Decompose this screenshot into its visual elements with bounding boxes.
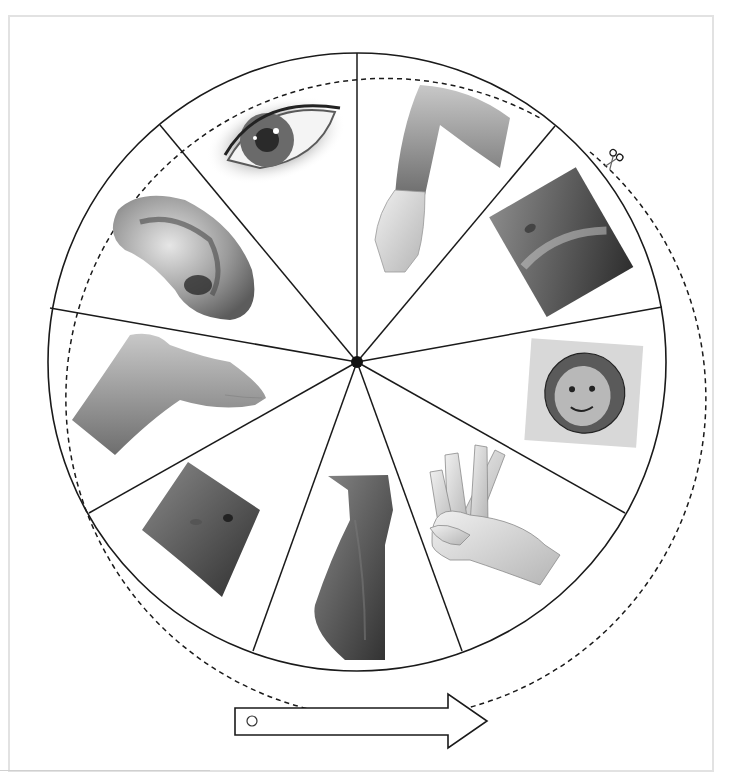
ear-photo bbox=[113, 196, 255, 320]
legs-photo bbox=[314, 475, 393, 660]
scissors-icon bbox=[601, 148, 624, 172]
foot-photo bbox=[72, 334, 266, 455]
belly-photo bbox=[142, 462, 260, 597]
arrow-pointer[interactable] bbox=[235, 694, 487, 748]
chest-photo bbox=[489, 167, 633, 317]
spinner-wheel bbox=[0, 0, 731, 784]
face-photo bbox=[524, 338, 643, 448]
center-pivot bbox=[351, 356, 363, 368]
arm-photo bbox=[375, 85, 510, 272]
